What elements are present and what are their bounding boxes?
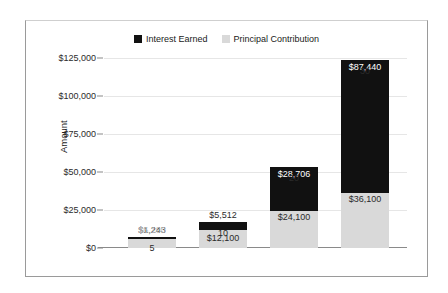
x-tick-label: 5 (128, 243, 176, 253)
y-tick-mark (97, 172, 103, 173)
x-tick-label: 10 (199, 228, 247, 238)
y-tick-label: $25,000 (63, 205, 96, 215)
legend-label-interest-earned: Interest Earned (146, 34, 208, 44)
y-tick-label: $0 (86, 243, 96, 253)
bar-segment-principal[interactable]: $24,100 (270, 211, 318, 248)
legend-label-principal-contribution: Principal Contribution (234, 34, 320, 44)
y-tick-mark (97, 96, 103, 97)
y-tick-label: $100,000 (58, 91, 96, 101)
bar-segment-principal[interactable]: $36,100 (341, 193, 389, 248)
y-tick-mark (97, 210, 103, 211)
bar-label-principal: $36,100 (341, 194, 389, 204)
y-tick-mark (97, 58, 103, 59)
y-tick-label: $75,000 (63, 129, 96, 139)
bar-label-interest: $5,512 (199, 210, 247, 220)
plot-area: $125,000 $100,000 $75,000 $50,000 $25,00… (104, 58, 407, 248)
legend-item-interest-earned: Interest Earned (134, 34, 208, 44)
bar-group-10[interactable]: $5,512 $12,100 10 (199, 222, 247, 248)
square-swatch-icon (134, 35, 142, 43)
x-tick-label: 20 (270, 173, 318, 183)
bar-label-principal: $6,100 (128, 225, 176, 235)
bar-group-20[interactable]: $28,706 $24,100 20 (270, 167, 318, 248)
gridline (104, 58, 407, 59)
y-tick-label: $125,000 (58, 53, 96, 63)
chart-frame: Interest Earned Principal Contribution A… (25, 20, 428, 277)
legend-item-principal-contribution: Principal Contribution (222, 34, 320, 44)
bar-label-principal: $24,100 (270, 212, 318, 222)
y-tick-label: $50,000 (63, 167, 96, 177)
square-swatch-icon (222, 35, 230, 43)
bar-group-30[interactable]: $87,440 $36,100 30 (341, 60, 389, 248)
bar-group-5[interactable]: $1,243 $6,100 5 (128, 237, 176, 248)
x-tick-label: 30 (341, 66, 389, 76)
bar-segment-interest[interactable]: $87,440 (341, 60, 389, 193)
y-tick-mark (97, 134, 103, 135)
chart-legend: Interest Earned Principal Contribution (26, 34, 427, 44)
